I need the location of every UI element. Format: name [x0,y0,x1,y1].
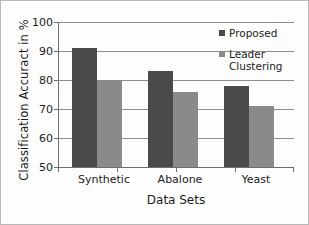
bar-leader-clustering-synthetic [97,80,122,167]
legend-item-proposed: Proposed [219,27,303,39]
chart-legend: Proposed Leader Clustering [219,27,303,81]
bar-proposed-abalone [148,71,173,167]
legend-item-leader-clustering: Leader Clustering [219,48,303,72]
x-tick-mark [293,168,294,172]
y-tick-label: 80 [27,74,53,87]
y-tick-label: 90 [27,45,53,58]
x-tick-label-yeast: Yeast [210,173,302,186]
x-axis-tick-labels: Synthetic Abalone Yeast [58,173,294,189]
bar-leader-clustering-abalone [173,92,198,167]
legend-swatch-icon [219,51,225,57]
x-tick-mark [235,168,236,172]
y-tick-label: 60 [27,132,53,145]
legend-label-leader-clustering: Leader Clustering [229,48,283,72]
y-tick-label: 100 [27,16,53,29]
bar-chart-figure: Classification Accuract in % 100 90 80 7… [0,0,309,225]
bar-proposed-synthetic [72,48,97,167]
x-axis-title: Data Sets [58,193,294,207]
x-tick-mark [58,168,59,172]
y-tick-label: 70 [27,103,53,116]
bar-leader-clustering-yeast [249,106,274,167]
x-tick-mark [176,168,177,172]
legend-swatch-icon [219,30,225,36]
y-tick-label: 50 [27,161,53,174]
bar-proposed-yeast [224,86,249,167]
y-axis-tick-labels: 100 90 80 70 60 50 [23,22,53,167]
x-tick-mark [117,168,118,172]
legend-label-proposed: Proposed [229,27,277,39]
